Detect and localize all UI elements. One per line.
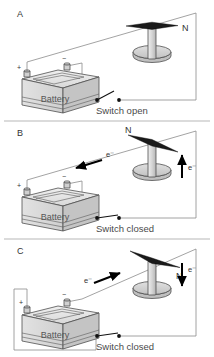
panel-b-switch-caption: Switch closed <box>96 223 154 234</box>
switch-contact-right <box>117 334 121 338</box>
battery-positive-terminal <box>24 188 30 195</box>
switch-contact-left <box>95 98 99 102</box>
switch-contact-left <box>95 334 99 338</box>
switch-lever-closed <box>97 333 118 336</box>
panel-b-battery: Battery + − <box>17 173 99 231</box>
panel-a-switch-caption: Switch open <box>96 105 148 116</box>
battery-negative-terminal <box>64 299 70 306</box>
panel-b: B e⁻ N Ba <box>17 125 196 234</box>
panel-b-minus-label: − <box>62 173 66 180</box>
switch-lever-open <box>97 91 114 100</box>
battery-negative-terminal <box>64 181 70 188</box>
compass-post <box>148 261 156 295</box>
panel-a-letter: A <box>17 9 23 19</box>
switch-contact-right <box>117 98 121 102</box>
panel-b-external-arrow: e⁻ <box>182 155 196 178</box>
panel-a-battery-label: Battery <box>41 94 70 104</box>
compass-post <box>148 25 156 59</box>
battery-negative-terminal <box>64 63 70 70</box>
switch-contact-right <box>117 216 121 220</box>
battery-positive-terminal <box>24 306 30 313</box>
switch-lever-closed <box>97 215 118 218</box>
panel-b-electron-arrow: e⁻ <box>76 150 114 168</box>
panel-c-external-arrow-label: e⁻ <box>188 265 196 274</box>
battery-positive-terminal <box>24 70 30 77</box>
panel-a-north-label: N <box>182 23 189 33</box>
panel-c-letter: C <box>17 246 24 256</box>
panel-b-electron-label: e⁻ <box>106 150 114 159</box>
panel-c-battery: Battery + − <box>19 291 99 349</box>
panel-c-external-arrow: e⁻ <box>182 263 196 286</box>
panel-c-electron-arrow: e⁻ <box>84 273 120 285</box>
panel-a-minus-label: − <box>62 55 66 62</box>
panel-c: C e⁻ N <box>14 246 196 352</box>
panel-c-switch-caption: Switch closed <box>96 341 154 352</box>
panel-a-battery: Battery + − <box>17 55 99 113</box>
panel-b-letter: B <box>17 128 23 138</box>
panel-c-battery-label: Battery <box>41 330 70 340</box>
panel-a: A N <box>17 9 196 116</box>
panel-b-plus-label: + <box>17 182 21 189</box>
panel-c-plus-label: + <box>19 299 23 306</box>
panel-c-minus-label: − <box>62 291 66 298</box>
compass-needle-a <box>126 22 178 29</box>
electromagnetism-figure: A N <box>0 0 214 357</box>
panel-b-north-label: N <box>125 125 132 135</box>
panel-b-compass: N <box>125 125 178 181</box>
panel-a-plus-label: + <box>17 64 21 71</box>
compass-post <box>148 143 156 177</box>
panel-b-external-arrow-label: e⁻ <box>188 163 196 172</box>
switch-contact-left <box>95 216 99 220</box>
panel-b-battery-label: Battery <box>41 212 70 222</box>
panel-a-compass: N <box>126 22 189 62</box>
panel-c-electron-label: e⁻ <box>84 276 92 285</box>
